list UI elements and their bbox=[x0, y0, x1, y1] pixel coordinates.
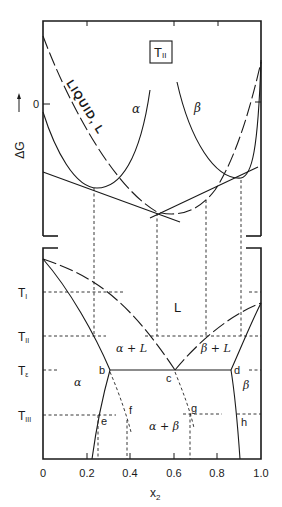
temperature-box-label: TII bbox=[154, 45, 166, 60]
liquidus-beta bbox=[175, 303, 261, 370]
x-tick-0.4: 0.4 bbox=[122, 467, 137, 479]
point-g: g bbox=[191, 402, 197, 414]
temp-label-t3: TIII bbox=[18, 409, 31, 423]
x-tick-0.6: 0.6 bbox=[166, 467, 181, 479]
solidus-beta bbox=[231, 303, 261, 370]
region-alpha-beta: α + β bbox=[149, 420, 179, 433]
point-c: c bbox=[166, 372, 172, 384]
temp-label-t1: TI bbox=[18, 286, 27, 300]
beta-curve bbox=[177, 60, 261, 178]
solvus-beta bbox=[231, 370, 240, 459]
zero-label: 0 bbox=[33, 98, 39, 110]
region-liquid: L bbox=[174, 300, 181, 315]
point-d: d bbox=[234, 364, 240, 376]
point-h: h bbox=[241, 416, 247, 428]
region-beta: β bbox=[242, 379, 249, 392]
temp-label-te: Tε bbox=[18, 364, 28, 378]
phase-diagram: TII 0 ΔG LIQUID, L α β bbox=[0, 0, 282, 507]
point-b: b bbox=[99, 364, 105, 376]
free-energy-panel: TII 0 ΔG LIQUID, L α β bbox=[13, 21, 261, 236]
liquidus-alpha bbox=[43, 259, 175, 370]
phase-diagram-panel: TI TII Tε TIII L α + L β + L α β α + β b… bbox=[18, 248, 261, 459]
region-alpha-liquid: α + L bbox=[116, 342, 147, 355]
delta-g-label: ΔG bbox=[13, 141, 27, 158]
region-alpha: α bbox=[74, 376, 82, 389]
point-e: e bbox=[101, 415, 107, 427]
alpha-curve-label: α bbox=[132, 102, 140, 116]
x-axis-label: x2 bbox=[150, 486, 161, 502]
point-f: f bbox=[129, 404, 133, 416]
top-panel-frame bbox=[43, 21, 261, 236]
x-tick-1.0: 1.0 bbox=[253, 467, 268, 479]
beta-curve-label: β bbox=[193, 101, 201, 115]
solidus-alpha bbox=[43, 259, 110, 370]
x-tick-0.8: 0.8 bbox=[209, 467, 224, 479]
region-beta-liquid: β + L bbox=[200, 342, 231, 355]
x-tick-0.2: 0.2 bbox=[79, 467, 94, 479]
temp-label-t2: TII bbox=[18, 330, 29, 344]
x-tick-0: 0 bbox=[40, 467, 46, 479]
x-axis: 0 0.2 0.4 0.6 0.8 1.0 x2 bbox=[40, 467, 269, 502]
tangent-alpha-liquid bbox=[43, 172, 180, 222]
construction-lines bbox=[94, 180, 241, 336]
tangent-liquid-beta bbox=[150, 167, 258, 218]
